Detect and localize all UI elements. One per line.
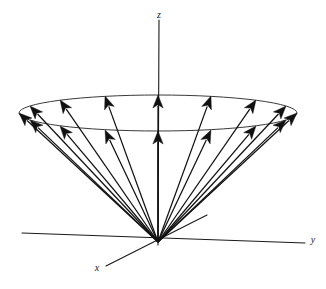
vector-shaft	[66, 109, 158, 242]
vector-arrowhead	[60, 100, 72, 114]
vector-cone-diagram: z y x	[0, 0, 326, 289]
vector-shaft	[158, 114, 278, 242]
vector-shaft	[110, 140, 158, 242]
vector-arrowhead	[60, 126, 72, 139]
vector-shaft	[158, 109, 250, 242]
vector-shaft	[109, 106, 158, 242]
vector-shaft	[38, 114, 158, 242]
z-axis-label: z	[156, 9, 161, 20]
vector-field-group	[19, 95, 297, 242]
vector-shaft	[158, 140, 206, 242]
vector-shaft	[38, 128, 158, 242]
vector-shaft	[158, 134, 249, 242]
vector-arrowhead	[244, 100, 256, 114]
vector-shaft	[67, 134, 158, 242]
vector-arrowhead	[244, 126, 256, 139]
y-axis-label: y	[310, 234, 316, 245]
x-axis-label: x	[94, 262, 100, 273]
figure-canvas: z y x	[0, 0, 326, 289]
vector-shaft	[158, 106, 207, 242]
vector-shaft	[158, 128, 278, 242]
